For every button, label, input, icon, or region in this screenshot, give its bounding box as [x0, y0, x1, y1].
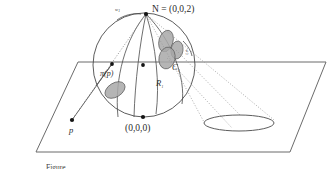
- w1-subscript: 1: [118, 9, 120, 13]
- region-r-subscript: 1: [162, 85, 164, 89]
- figure-caption: Figure: [46, 163, 66, 169]
- p-label: p: [68, 125, 73, 135]
- w2-subscript: 2: [185, 52, 189, 56]
- projected-ellipse-on-plane: [204, 115, 274, 131]
- north-pole-dot: [144, 12, 148, 16]
- origin-dot: [141, 115, 145, 119]
- blob-left: [102, 78, 128, 102]
- figure-container: N = (0,0,2) (0,0,0) p π(p) R1 C1 w1 w2 F…: [0, 0, 331, 169]
- region-r-label: R1: [155, 78, 164, 89]
- north-pole-label: N = (0,0,2): [152, 4, 194, 15]
- p-point-dot: [70, 118, 74, 122]
- set-c-subscript: 1: [178, 69, 180, 73]
- ground-plane: [36, 62, 326, 152]
- stereographic-projection-figure: N = (0,0,2) (0,0,0) p π(p) R1 C1 w1 w2: [0, 0, 331, 169]
- w1-label: w1: [115, 7, 120, 13]
- set-c-label: C1: [172, 62, 180, 73]
- sphere-center-dot: [141, 63, 145, 67]
- projection-of-p-label: π(p): [100, 69, 114, 78]
- origin-label: (0,0,0): [125, 123, 150, 134]
- projection-point-dot: [110, 62, 114, 66]
- w2-label: w2: [183, 48, 191, 56]
